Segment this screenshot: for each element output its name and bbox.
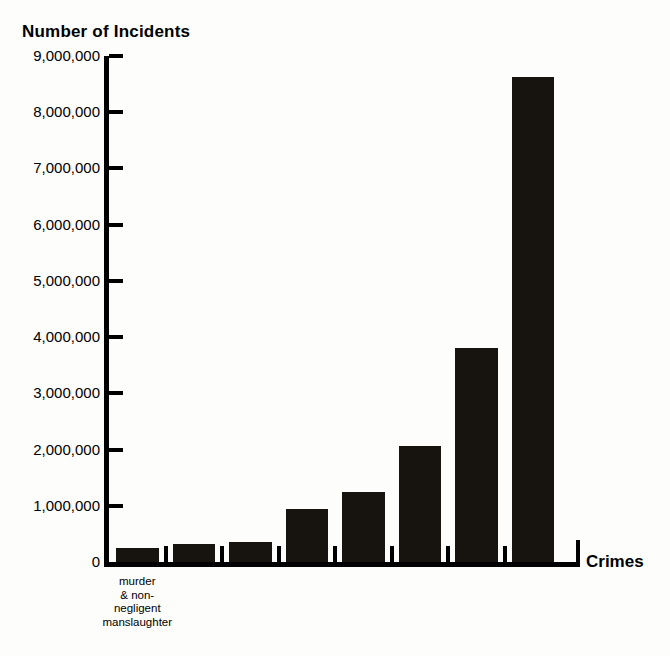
y-axis-tick-label-wrap: 6,000,000 [0,216,100,232]
x-axis-line [104,562,580,567]
y-axis-tick-label: 2,000,000 [4,441,100,458]
bar [173,544,216,562]
x-axis-category-label-line: negligent [77,602,197,616]
x-axis-category-label-line: murder [77,575,197,589]
y-axis-tick-label-wrap: 5,000,000 [0,272,100,288]
x-axis-tick [277,546,281,563]
x-axis-tick [503,546,507,563]
y-axis-tick-label-wrap: 7,000,000 [0,159,100,175]
y-axis-tick-label-wrap: 9,000,000 [0,47,100,63]
y-axis-line [104,56,109,566]
y-axis-tick [109,166,123,170]
y-axis-tick [109,448,123,452]
chart-page: Number of Incidents 9,000,0008,000,0007,… [0,0,670,656]
bar [399,446,442,562]
x-axis-tick [446,546,450,563]
y-axis-tick-label: 8,000,000 [4,103,100,120]
y-axis-tick [109,110,123,114]
y-axis-tick-label-wrap: 0 [0,553,100,569]
x-axis-tick [220,546,224,563]
y-axis-tick-label: 1,000,000 [4,497,100,514]
y-axis-tick [109,279,123,283]
x-axis-tick [333,546,337,563]
y-axis-tick-label: 9,000,000 [4,47,100,64]
y-axis-tick-label-wrap: 4,000,000 [0,328,100,344]
y-axis-tick-label: 0 [4,553,100,570]
y-axis-tick-label-wrap: 2,000,000 [0,441,100,457]
y-axis-tick-label-wrap: 1,000,000 [0,497,100,513]
y-axis-tick-label: 6,000,000 [4,216,100,233]
bar [229,542,272,562]
y-axis-tick [109,54,123,58]
y-axis-tick-label: 3,000,000 [4,384,100,401]
y-axis-tick-label: 4,000,000 [4,328,100,345]
y-axis-tick-label: 7,000,000 [4,159,100,176]
x-axis-tick [390,546,394,563]
bar [116,548,159,562]
y-axis-tick [109,391,123,395]
y-axis-tick-label-wrap: 8,000,000 [0,103,100,119]
y-axis-tick-label-wrap: 3,000,000 [0,384,100,400]
y-axis-tick-label: 5,000,000 [4,272,100,289]
x-axis-category-label-line: manslaughter [77,616,197,630]
plot-area: 9,000,0008,000,0007,000,0006,000,0005,00… [0,0,670,656]
y-axis-tick [109,504,123,508]
x-axis-title: Crimes [586,552,644,572]
x-axis-category-label-line: & non- [77,589,197,603]
y-axis-tick [109,335,123,339]
bar [512,77,555,562]
x-axis-tick [164,546,168,563]
bar [455,348,498,562]
x-axis-end-cap [576,540,580,567]
y-axis-tick [109,223,123,227]
x-axis-category-label-0: murder& non-negligentmanslaughter [77,575,197,629]
bar [286,509,329,562]
bar [342,492,385,562]
